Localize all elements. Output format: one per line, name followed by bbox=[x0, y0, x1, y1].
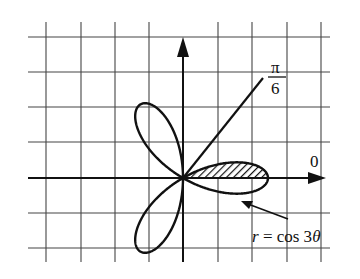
x-axis-arrow-icon bbox=[308, 172, 326, 184]
polar-axis-zero-label: 0 bbox=[310, 152, 319, 171]
polar-diagram: π 6 0 r = cos 3θ bbox=[0, 0, 360, 279]
angle-label-denominator: 6 bbox=[271, 79, 280, 98]
curve-label: r = cos 3θ bbox=[252, 227, 320, 246]
grid bbox=[28, 22, 330, 262]
angle-label-numerator: π bbox=[271, 58, 280, 77]
curve-annotation bbox=[241, 201, 288, 219]
y-axis-arrow-icon bbox=[177, 37, 189, 57]
